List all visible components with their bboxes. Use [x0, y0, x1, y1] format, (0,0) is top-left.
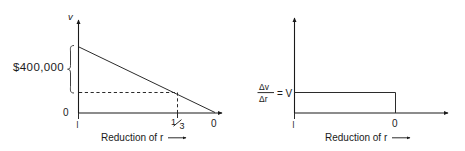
left-xtick-label-third: 1 3: [171, 117, 185, 131]
right-xtick-label-zero: 0: [392, 118, 398, 129]
right-xtick-label-one: l: [293, 120, 295, 130]
left-xtick-label-one: l: [77, 120, 79, 130]
right-y-label-denominator: Δr: [259, 94, 268, 104]
left-chart: v 0 $400,000 l 1 3 0 Reduction of r: [13, 11, 222, 143]
economics-figure-pair: v 0 $400,000 l 1 3 0 Reduction of r: [0, 0, 465, 151]
left-xtick-third-numerator: 1: [171, 117, 176, 127]
right-chart: Δv Δr = V l 0 Reduction of r: [258, 18, 449, 143]
left-brace: [68, 46, 74, 94]
left-x-axis-caption: Reduction of r: [101, 132, 164, 143]
left-y-axis-label: v: [68, 11, 74, 22]
left-xtick-third-denominator: 3: [180, 121, 185, 131]
right-x-axis-caption: Reduction of r: [325, 132, 388, 143]
left-brace-label: $400,000: [13, 61, 64, 73]
left-origin-label: 0: [63, 107, 69, 118]
right-y-label-suffix: = V: [277, 88, 293, 99]
left-xtick-label-zero: 0: [211, 118, 217, 129]
figure-root: v 0 $400,000 l 1 3 0 Reduction of r: [0, 0, 465, 151]
right-y-axis-label: Δv Δr = V: [258, 82, 293, 104]
left-value-line: [79, 47, 215, 113]
right-y-label-numerator: Δv: [259, 82, 270, 92]
right-constant-block: [295, 93, 396, 114]
